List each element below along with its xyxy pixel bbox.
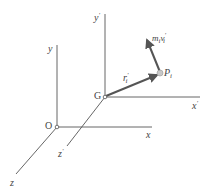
y-axis-label: y — [48, 44, 52, 54]
z-axis-label: z — [10, 178, 14, 188]
position-vector-label: r′i — [123, 72, 127, 85]
z-prime-axis-label: z′ — [58, 148, 63, 159]
z-axis — [16, 127, 57, 174]
kinematics-diagram — [0, 0, 205, 195]
origin-g-label: G — [94, 91, 101, 101]
z-prime-axis — [67, 97, 105, 146]
particle-label: Pi — [164, 68, 172, 80]
x-prime-axis-label: x′ — [192, 100, 198, 111]
origin-o-point — [55, 125, 59, 129]
position-vector-arrow — [106, 75, 157, 96]
y-prime-axis-label: y′ — [94, 12, 100, 23]
origin-g-point — [103, 95, 107, 99]
momentum-vector-label: miv′i — [152, 32, 165, 45]
origin-o-label: O — [45, 121, 52, 131]
x-axis-label: x — [146, 130, 150, 140]
particle-point — [157, 70, 163, 76]
